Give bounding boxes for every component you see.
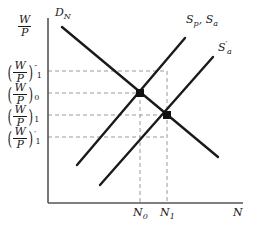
paren-close-icon: ) [28,85,33,104]
curve-label-demand: DN [55,7,71,21]
paren-close-icon: ) [28,63,33,82]
y-axis-label-denominator: P [18,27,31,39]
curve-label-demand-base: D [55,6,64,19]
y-axis-label: W P [18,14,31,38]
y-axis-label-numerator: W [18,14,31,27]
supply-curve-sa-prime [100,57,213,185]
paren-close-icon: ) [28,107,33,126]
dashed-guides [48,71,167,203]
supply-curve-sp-sa [77,38,185,165]
y-tick-label-wp1-prime: (WP)′1 [6,126,41,150]
x-tick-label-n0: N0 [133,207,148,221]
paren-open-icon: ( [7,107,12,126]
curves [62,27,218,185]
curve-label-supply-actual-shifted: S′a [218,40,232,56]
paren-open-icon: ( [7,85,12,104]
paren-close-icon: ) [28,129,33,148]
curve-label-demand-sub: N [64,12,71,21]
point-equilibrium-lower [163,111,171,119]
axes [48,18,243,203]
paren-open-icon: ( [7,63,12,82]
paren-open-icon: ( [7,129,12,148]
x-tick-label-n1: N1 [160,207,175,221]
curve-label-supply-planned-actual: Sp, Sa [186,14,218,28]
x-axis-label: N [233,207,243,218]
point-equilibrium-upper [136,89,144,97]
